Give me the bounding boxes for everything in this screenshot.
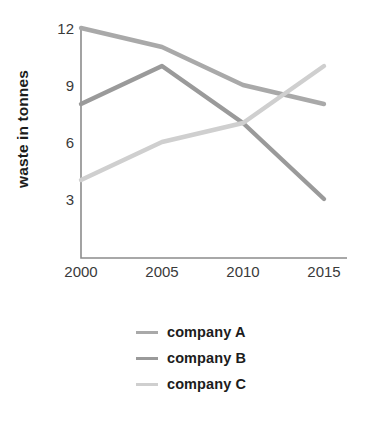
- plot-area-wrapper: waste in tonnes 12 9 6 3 2000 2005 2010 …: [0, 0, 375, 300]
- x-tick-label: 2000: [64, 264, 97, 279]
- plot-svg: [0, 0, 375, 300]
- legend-label: company C: [167, 376, 246, 392]
- line-chart-figure: waste in tonnes 12 9 6 3 2000 2005 2010 …: [0, 0, 375, 425]
- legend-item-company-a: company A: [136, 322, 246, 342]
- legend-label: company A: [167, 324, 246, 340]
- x-tick-label: 2015: [307, 264, 340, 279]
- legend-item-company-b: company B: [136, 348, 246, 368]
- legend-swatch-icon: [136, 331, 158, 334]
- x-tick-label: 2005: [145, 264, 178, 279]
- legend-swatch-icon: [136, 357, 158, 360]
- chart-legend: company A company B company C: [0, 322, 375, 402]
- legend-swatch-icon: [136, 383, 158, 386]
- x-tick-label: 2010: [226, 264, 259, 279]
- x-axis-tick-labels: 2000 2005 2010 2015: [0, 264, 375, 294]
- legend-item-company-c: company C: [136, 374, 246, 394]
- legend-label: company B: [167, 350, 246, 366]
